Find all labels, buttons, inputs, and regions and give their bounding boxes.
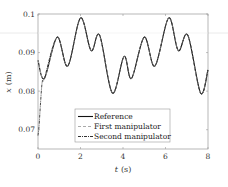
x-tick-label: 2 bbox=[78, 152, 83, 161]
y-tick-label: 0.09 bbox=[18, 48, 35, 57]
x-tick-label: 0 bbox=[36, 152, 41, 161]
x-tick-label: 4 bbox=[121, 152, 126, 161]
y-tick-label: 0.07 bbox=[18, 125, 35, 134]
legend-label-reference: Reference bbox=[94, 112, 133, 121]
legend: Reference First manipulator Second manip… bbox=[75, 109, 171, 142]
chart: 0.070.080.090.1 02468 t(s) x(m) Referenc… bbox=[0, 0, 228, 187]
y-axis-label: x(m) bbox=[4, 71, 13, 92]
y-tick-label: 0.08 bbox=[18, 87, 35, 96]
x-tick-label: 6 bbox=[163, 152, 168, 161]
x-tick-label: 8 bbox=[206, 152, 211, 161]
y-tick-label: 0.1 bbox=[23, 10, 35, 19]
x-axis-label: t(s) bbox=[115, 165, 132, 174]
legend-label-first-manipulator: First manipulator bbox=[94, 122, 161, 131]
legend-label-second-manipulator: Second manipulator bbox=[94, 132, 171, 141]
